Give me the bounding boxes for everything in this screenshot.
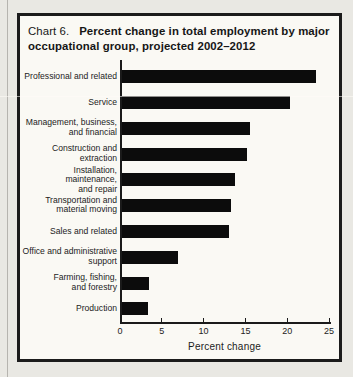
x-axis-tick — [287, 318, 288, 322]
bar-construction-and-extraction — [122, 148, 247, 161]
page-edge-line — [7, 0, 8, 377]
category-label: Production — [20, 304, 117, 314]
x-axis-tick — [161, 318, 162, 322]
plot-area: Percent change Professional and relatedS… — [20, 16, 339, 359]
category-label: Installation, maintenance, and repair — [20, 165, 117, 194]
x-axis-line — [120, 322, 331, 324]
bar-professional-and-related — [122, 70, 317, 83]
bar-office-and-administrative-support — [122, 251, 179, 264]
bar-production — [122, 302, 149, 315]
bar-installation-maintenance-and-repair — [122, 173, 236, 186]
x-axis-tick-label: 15 — [234, 326, 256, 336]
category-label: Farming, fishing, and forestry — [20, 273, 117, 292]
x-axis-tick-label: 25 — [318, 326, 340, 336]
bar-transportation-and-material-moving — [122, 199, 232, 212]
x-axis-tick-label: 0 — [109, 326, 131, 336]
bar-management-business-and-financial — [122, 122, 251, 135]
bar-sales-and-related — [122, 225, 230, 238]
scan-artifact-line — [0, 96, 353, 97]
chart-frame: Chart 6. Percent change in total employm… — [17, 13, 342, 362]
x-axis-tick-label: 10 — [193, 326, 215, 336]
bar-farming-fishing-and-forestry — [122, 277, 150, 290]
category-label: Sales and related — [20, 227, 117, 237]
category-label: Management, business, and financial — [20, 118, 117, 137]
bar-service — [122, 96, 290, 109]
category-label: Transportation and material moving — [20, 196, 117, 215]
x-axis-tick — [329, 318, 330, 322]
x-axis-tick-label: 5 — [151, 326, 173, 336]
x-axis-tick-label: 20 — [276, 326, 298, 336]
x-axis-tick — [245, 318, 246, 322]
category-label: Service — [20, 98, 117, 108]
category-label: Office and administrative support — [20, 247, 117, 266]
x-axis-tick — [203, 318, 204, 322]
category-label: Construction and extraction — [20, 144, 117, 163]
x-axis-title: Percent change — [120, 341, 329, 352]
category-label: Professional and related — [20, 72, 117, 82]
